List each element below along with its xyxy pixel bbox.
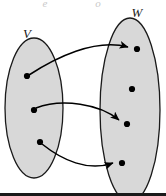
element-dot-v1 xyxy=(24,73,30,79)
set-w-label: W xyxy=(132,5,144,20)
mapping-diagram-figure: e o V W xyxy=(0,0,166,196)
element-dot-v3 xyxy=(37,139,43,145)
element-dot-w4 xyxy=(119,160,125,166)
ghost-mark-left: e xyxy=(43,0,48,9)
scan-artifact-group: e o xyxy=(43,0,102,9)
diagram-canvas: e o V W xyxy=(0,0,166,196)
ghost-mark-right: o xyxy=(95,0,101,9)
element-dot-w1 xyxy=(134,46,140,52)
element-dot-w3 xyxy=(124,121,130,127)
footer-bar xyxy=(0,193,166,196)
element-dot-v2 xyxy=(31,107,37,113)
element-dot-w2 xyxy=(129,86,135,92)
